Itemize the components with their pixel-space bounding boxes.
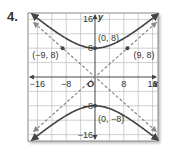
point-label: (0, −8) [98, 114, 124, 124]
point-label: (0, 8) [98, 33, 119, 43]
y-tick-label: −16 [78, 130, 93, 140]
y-axis-label: y [97, 12, 104, 22]
x-axis-label: x [152, 79, 159, 89]
point-marker [125, 46, 129, 50]
hyperbola-graph: −16−8816168−8−16xyO(0, 8)(0, −8)(−9, 8)(… [0, 0, 171, 152]
point-label: (−9, 8) [32, 50, 58, 60]
point-label: (9, 8) [133, 50, 154, 60]
point-marker [61, 46, 65, 50]
y-tick-label: −8 [83, 101, 93, 111]
origin-label: O [87, 79, 94, 89]
y-tick-label: 8 [88, 43, 93, 53]
y-tick-label: 16 [83, 14, 93, 24]
x-tick-label: −8 [61, 79, 71, 89]
x-tick-label: −16 [30, 79, 45, 89]
point-marker [93, 46, 97, 50]
point-marker [93, 104, 97, 108]
x-tick-label: 8 [121, 79, 126, 89]
